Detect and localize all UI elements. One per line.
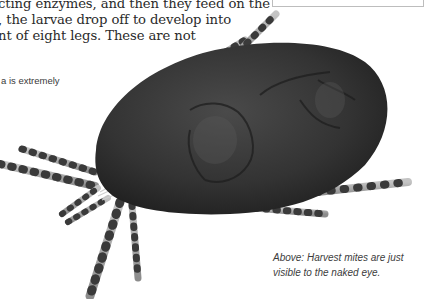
- caption-line: visible to the naked eye.: [273, 265, 404, 280]
- caption-line: Above: Harvest mites are just: [273, 250, 404, 265]
- figure-caption: Above: Harvest mites are just visible to…: [273, 250, 404, 280]
